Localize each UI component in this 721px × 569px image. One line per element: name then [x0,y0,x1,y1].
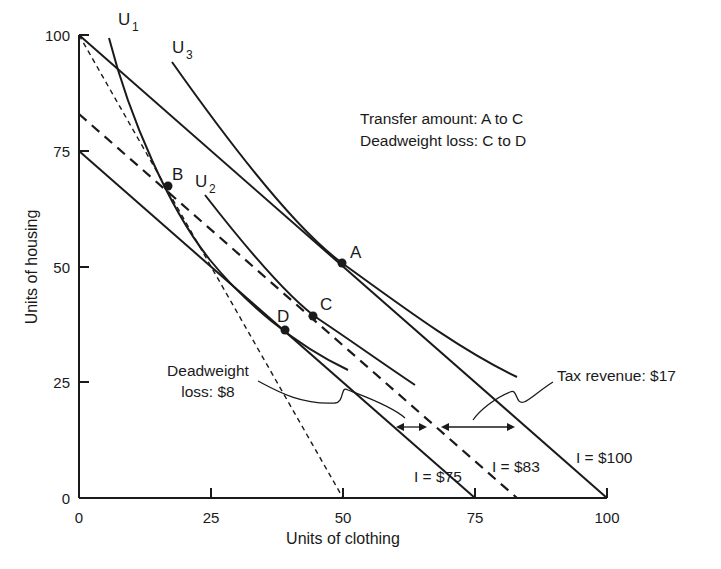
u3-label: U 3 [172,38,193,62]
x-tick-label: 75 [467,509,484,526]
svg-text:1: 1 [132,20,139,34]
budget-line-83 [79,114,517,498]
point-d-label: D [277,307,289,326]
point-a-label: A [350,243,362,262]
y-axis-title: Units of housing [23,210,40,325]
svg-text:3: 3 [186,48,193,62]
economics-diagram: 100 75 50 25 0 0 25 50 75 100 Units of c… [0,0,721,569]
y-tick-label: 25 [53,374,70,391]
tax-revenue-arrow [441,423,515,431]
svg-text:2: 2 [209,182,216,196]
y-tick-label: 100 [45,27,70,44]
u2-label: U 2 [195,172,216,196]
y-tick-label: 75 [53,143,70,160]
deadweight-label-line1: Deadweight [167,362,250,379]
u1-label: U 1 [118,10,139,34]
svg-text:U: U [172,38,184,57]
x-tick-labels: 0 25 50 75 100 [75,509,620,526]
transfer-note: Transfer amount: A to C [360,110,523,127]
y-tick-label: 0 [62,490,70,507]
deadweight-leader [258,381,405,418]
deadweight-arrow [396,423,427,431]
point-b-label: B [172,165,183,184]
x-tick-label: 25 [203,509,220,526]
tax-revenue-label: Tax revenue: $17 [557,367,676,384]
point-c [309,312,318,321]
svg-text:U: U [195,172,207,191]
deadweight-note: Deadweight loss: C to D [360,132,526,149]
y-tick-labels: 100 75 50 25 0 [45,27,70,507]
x-axis-title: Units of clothing [286,530,400,547]
budget-label-83: I = $83 [492,458,540,475]
x-tick-label: 0 [75,509,83,526]
budget-label-100: I = $100 [576,449,633,466]
x-tick-label: 50 [335,509,352,526]
point-a [338,259,347,268]
y-tick-label: 50 [53,259,70,276]
svg-text:U: U [118,10,130,29]
deadweight-label-line2: loss: $8 [181,383,234,400]
point-d [281,326,290,335]
point-c-label: C [320,295,332,314]
budget-label-75: I = $75 [414,468,462,485]
x-tick-label: 100 [594,509,619,526]
